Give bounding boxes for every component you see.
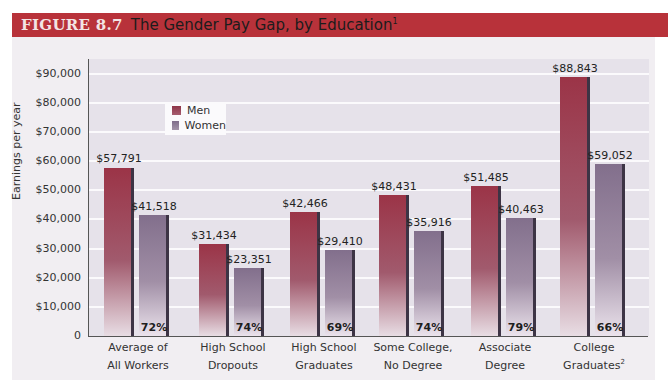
category-label-line2: Graduates2 bbox=[539, 355, 649, 373]
pay-ratio-label: 69% bbox=[327, 321, 353, 334]
men-value-label: $48,431 bbox=[371, 180, 417, 193]
women-value-label: $29,410 bbox=[317, 235, 363, 248]
x-axis-line bbox=[88, 336, 648, 337]
y-tick-label: 0 bbox=[74, 329, 81, 342]
y-axis-label: Earnings per year bbox=[10, 102, 23, 200]
figure-header: FIGURE 8.7 The Gender Pay Gap, by Educat… bbox=[12, 13, 668, 37]
category-label: CollegeGraduates2 bbox=[539, 341, 649, 373]
y-tick-label: $40,000 bbox=[36, 212, 82, 225]
y-tick-label: $60,000 bbox=[36, 154, 82, 167]
men-value-label: $42,466 bbox=[282, 197, 328, 210]
bar-men bbox=[471, 186, 501, 336]
category-label-line2-text: Dropouts bbox=[208, 359, 258, 372]
women-value-label: $41,518 bbox=[131, 200, 177, 213]
category-footnote: 2 bbox=[620, 358, 624, 366]
category-label-line1: College bbox=[539, 341, 649, 355]
y-axis-line bbox=[88, 59, 89, 337]
bar-men bbox=[290, 212, 320, 336]
category-label-line2: All Workers bbox=[83, 355, 193, 373]
y-tick-label: $20,000 bbox=[36, 271, 82, 284]
women-value-label: $40,463 bbox=[498, 203, 544, 216]
legend: Men Women bbox=[165, 103, 226, 135]
pay-ratio-label: 74% bbox=[416, 321, 442, 334]
category-label-line1: Average of bbox=[83, 341, 193, 355]
pay-ratio-label: 74% bbox=[236, 321, 262, 334]
category-label-line2-text: No Degree bbox=[384, 359, 443, 372]
men-value-label: $88,843 bbox=[552, 62, 598, 75]
figure-title-text: The Gender Pay Gap, by Education bbox=[131, 16, 393, 34]
men-value-label: $31,434 bbox=[191, 229, 237, 242]
bar-women bbox=[139, 215, 169, 336]
title-footnote: 1 bbox=[392, 17, 397, 26]
y-tick-label: $10,000 bbox=[36, 300, 82, 313]
pay-ratio-label: 66% bbox=[597, 321, 623, 334]
category-label-line2-text: Graduates bbox=[295, 359, 352, 372]
bar-women bbox=[506, 218, 536, 336]
women-value-label: $35,916 bbox=[406, 216, 452, 229]
legend-item-men: Men bbox=[172, 103, 226, 118]
women-value-label: $59,052 bbox=[587, 149, 633, 162]
bar-men bbox=[104, 168, 134, 337]
men-swatch-icon bbox=[172, 106, 181, 115]
bar-men bbox=[560, 77, 590, 336]
bar-men bbox=[379, 195, 409, 336]
legend-men-label: Men bbox=[187, 104, 210, 117]
y-tick-label: $30,000 bbox=[36, 242, 82, 255]
category-label-line2-text: Degree bbox=[485, 359, 525, 372]
legend-item-women: Women bbox=[172, 118, 226, 133]
y-tick-label: $90,000 bbox=[36, 67, 82, 80]
legend-women-label: Women bbox=[185, 119, 226, 132]
category-label-line2-text: Graduates bbox=[563, 359, 620, 372]
bar-women bbox=[595, 164, 625, 336]
y-tick-label: $50,000 bbox=[36, 183, 82, 196]
women-swatch-icon bbox=[172, 121, 179, 130]
figure-number: FIGURE 8.7 bbox=[21, 16, 123, 34]
bar-men bbox=[199, 244, 229, 336]
men-value-label: $51,485 bbox=[463, 171, 509, 184]
y-tick-label: $70,000 bbox=[36, 125, 82, 138]
pay-ratio-label: 79% bbox=[508, 321, 534, 334]
category-label-line2-text: All Workers bbox=[107, 359, 169, 372]
men-value-label: $57,791 bbox=[96, 152, 142, 165]
women-value-label: $23,351 bbox=[226, 253, 272, 266]
y-tick-label: $80,000 bbox=[36, 96, 82, 109]
pay-ratio-label: 72% bbox=[141, 321, 167, 334]
figure-title: The Gender Pay Gap, by Education1 bbox=[131, 16, 398, 34]
category-label: Average ofAll Workers bbox=[83, 341, 193, 373]
